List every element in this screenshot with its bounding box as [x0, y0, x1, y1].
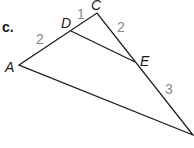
vertex-label-e: E: [140, 54, 149, 68]
triangle-diagram: c. A C D E 2 1 2 3: [0, 0, 194, 148]
triangle-acb: [19, 13, 193, 135]
vertex-label-c: C: [91, 0, 101, 12]
segment-label-ce: 2: [117, 20, 125, 34]
segment-label-eb: 3: [165, 82, 173, 96]
part-label: c.: [2, 20, 14, 34]
triangle-figure: [0, 0, 194, 148]
segment-label-ad: 2: [36, 32, 44, 46]
vertex-label-a: A: [5, 60, 14, 74]
segment-de: [71, 31, 135, 62]
segment-label-dc: 1: [77, 7, 85, 21]
vertex-label-d: D: [61, 16, 71, 30]
